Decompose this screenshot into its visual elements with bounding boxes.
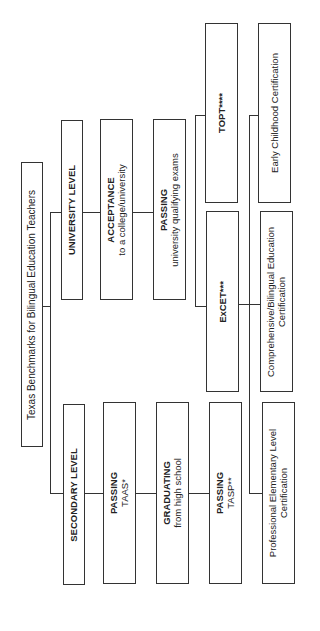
connector-vertical-trunk [50,212,51,494]
title-box: Texas Benchmarks for Bilingual Education… [21,162,43,447]
topt-box: TOPT**** [205,23,238,203]
connector-to-comprehensive [238,304,260,305]
acceptance-sub: to a college/university [117,164,128,255]
passing-university-box: PASSING university qualifying exams [153,119,186,300]
passing-taas-heading: PASSING [109,472,120,514]
passing-taas-sub: TAAS* [120,472,131,514]
passing-tasp-box: PASSING TASP** [209,402,242,584]
topt-label: TOPT**** [216,93,227,133]
graduating-box: GRADUATING from high school [156,402,189,584]
professional-line2: Certification [279,429,290,557]
passing-university-sub: university qualifying exams [170,153,181,267]
university-level-label: UNIVERSITY LEVEL [67,165,78,255]
graduating-sub: from high school [173,458,184,528]
graduating-heading: GRADUATING [162,458,173,528]
secondary-level-box: SECONDARY LEVEL [63,404,85,585]
connector-to-secondary [50,493,63,494]
professional-line1: Professional Elementary Level [268,429,279,557]
connector-to-university [50,212,61,213]
connector-taas-grad [136,493,156,494]
connector-to-early [249,115,258,116]
passing-taas-box: PASSING TAAS* [103,402,136,584]
acceptance-box: ACCEPTANCE to a college/university [100,119,133,300]
university-level-box: UNIVERSITY LEVEL [61,120,83,300]
connector-to-topt [195,115,205,116]
early-childhood-box: Early Childhood Certification [258,23,291,203]
connector-univ-acceptance [82,212,100,213]
diagram-title: Texas Benchmarks for Bilingual Education… [26,190,38,420]
connector-acceptance-passing [132,212,153,213]
connector-to-excet [195,306,206,307]
comprehensive-box: Comprehensive/Bilingual Education Certif… [260,211,293,392]
excet-label: ExCET*** [217,281,228,323]
connector-to-professional [249,493,262,494]
connector-title-trunk [42,306,50,307]
passing-tasp-sub: TASP** [226,472,237,514]
comprehensive-line2: Certification [277,227,288,377]
passing-tasp-heading: PASSING [215,472,226,514]
connector-exam-trunk [195,115,196,307]
connector-grad-tasp [189,493,209,494]
professional-box: Professional Elementary Level Certificat… [262,402,295,584]
comprehensive-line1: Comprehensive/Bilingual Education [266,227,277,377]
connector-sec-taas [85,493,103,494]
early-childhood-label: Early Childhood Certification [269,53,280,173]
passing-university-heading: PASSING [159,153,170,267]
acceptance-heading: ACCEPTANCE [106,164,117,255]
secondary-level-label: SECONDARY LEVEL [69,448,80,541]
excet-box: ExCET*** [206,211,239,392]
